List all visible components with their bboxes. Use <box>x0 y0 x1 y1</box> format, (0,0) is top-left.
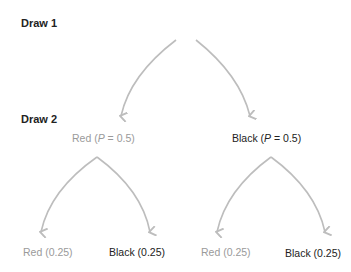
arrow-draw1-red <box>121 40 176 116</box>
level-label-draw1: Draw 1 <box>21 17 57 29</box>
leaf-red-black: Black (0.25) <box>109 246 165 258</box>
arrow-black-red <box>217 157 271 232</box>
leaf-red-red: Red (0.25) <box>23 246 73 258</box>
node-black: Black (P = 0.5) <box>232 132 301 144</box>
arrow-red-black <box>97 157 150 232</box>
leaf-black-black: Black (0.25) <box>285 247 341 259</box>
node-red: Red (P = 0.5) <box>72 132 135 144</box>
arrow-black-black <box>271 157 325 232</box>
leaf-black-red: Red (0.25) <box>201 246 251 258</box>
level-label-draw2: Draw 2 <box>21 113 57 125</box>
arrow-draw1-black <box>196 40 250 116</box>
arrow-red-red <box>41 157 97 232</box>
